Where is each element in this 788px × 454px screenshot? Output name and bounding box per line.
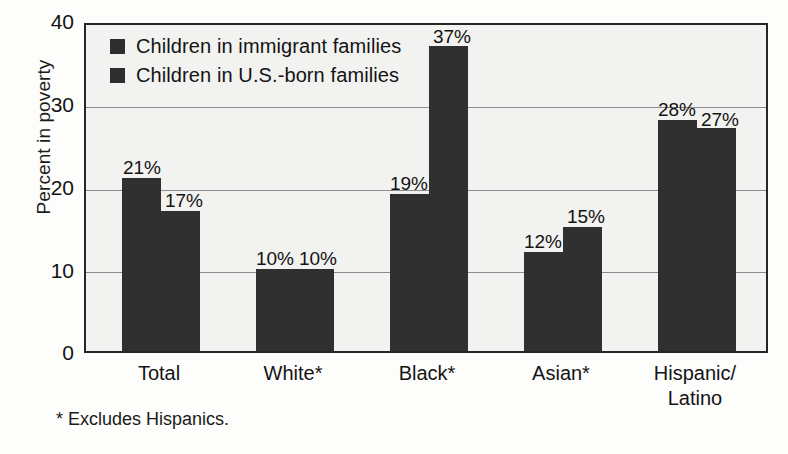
bar-total-usborn xyxy=(161,211,200,351)
x-tick-label-white: White* xyxy=(254,361,332,386)
legend-swatch-icon xyxy=(110,68,125,83)
y-tick-30: 30 xyxy=(10,93,74,117)
legend: Children in immigrant families Children … xyxy=(110,33,401,91)
legend-swatch-icon xyxy=(110,39,125,54)
bar-label-total-immigrant: 21% xyxy=(112,157,172,179)
bar-white-immigrant xyxy=(256,269,295,351)
y-tick-0: 0 xyxy=(10,341,74,365)
legend-item-usborn: Children in U.S.-born families xyxy=(110,62,401,88)
bar-label-black-immigrant: 19% xyxy=(379,173,439,195)
bar-label-white-usborn: 10% xyxy=(288,248,348,270)
plot-area: Children in immigrant families Children … xyxy=(84,23,768,353)
bar-hispanic-usborn xyxy=(697,128,736,351)
bar-black-immigrant xyxy=(390,194,429,351)
bar-black-usborn xyxy=(429,46,468,351)
bar-label-black-usborn: 37% xyxy=(422,26,482,48)
legend-label-usborn: Children in U.S.-born families xyxy=(136,64,399,87)
bar-label-total-usborn: 17% xyxy=(154,190,214,212)
x-tick-label-asian: Asian* xyxy=(522,361,600,386)
y-tick-20: 20 xyxy=(10,176,74,200)
bar-label-asian-immigrant: 12% xyxy=(513,231,573,253)
bar-white-usborn xyxy=(295,269,334,351)
bar-label-hispanic-usborn: 27% xyxy=(690,109,750,131)
bar-hispanic-immigrant xyxy=(658,120,697,351)
x-tick-label-black: Black* xyxy=(388,361,466,386)
y-tick-10: 10 xyxy=(10,259,74,283)
footnote: * Excludes Hispanics. xyxy=(56,409,229,430)
bar-label-asian-usborn: 15% xyxy=(556,206,616,228)
poverty-bar-chart-figure: Percent in poverty 40 30 20 10 0 Childre… xyxy=(0,0,788,454)
legend-label-immigrant: Children in immigrant families xyxy=(136,35,401,58)
x-tick-label-total: Total xyxy=(120,361,198,386)
x-tick-label-hispanic: Hispanic/ Latino xyxy=(646,361,744,411)
bar-asian-immigrant xyxy=(524,252,563,351)
legend-item-immigrant: Children in immigrant families xyxy=(110,33,401,59)
y-tick-40: 40 xyxy=(10,10,74,34)
